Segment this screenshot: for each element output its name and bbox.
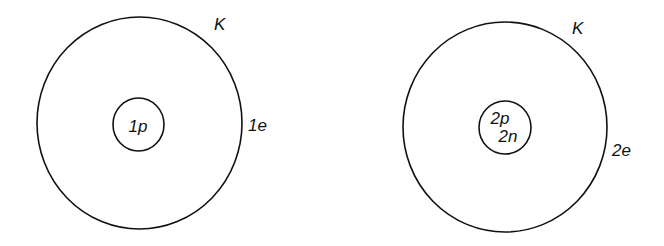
nucleus-neutrons-label: 2n [498,127,518,146]
shell-label: K [572,19,584,38]
electron-count-label: 1e [248,116,267,135]
helium-atom: 2p 2n K 2e [403,19,631,232]
electron-count-label: 2e [611,141,631,160]
nucleus-label: 1p [129,117,148,136]
atom-diagram: 1p K 1e 2p 2n K 2e [0,0,664,246]
shell-label: K [214,15,226,34]
nucleus-protons-label: 2p [490,109,510,128]
hydrogen-atom: 1p K 1e [37,15,267,229]
